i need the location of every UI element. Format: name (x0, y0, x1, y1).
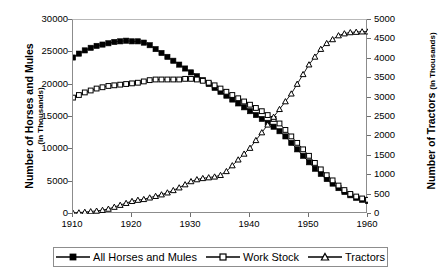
data-point (176, 185, 182, 190)
data-point (366, 197, 368, 202)
y-axis-right-tick-label: 4000 (374, 53, 414, 63)
y-axis-right-tick-label: 500 (374, 189, 414, 199)
series-all-horses-and-mules (73, 38, 368, 204)
data-point (182, 182, 188, 187)
data-point (283, 134, 288, 139)
x-axis-tick-label: 1950 (287, 219, 329, 229)
data-point (330, 37, 336, 42)
data-point (236, 96, 241, 101)
data-point (135, 39, 140, 44)
y-axis-left-tickmark (68, 51, 72, 52)
x-axis-tickmark (190, 213, 191, 217)
data-point (73, 55, 76, 60)
data-point (218, 86, 223, 91)
data-point (248, 102, 253, 107)
y-axis-right-tickmark (367, 135, 371, 136)
data-point (360, 196, 365, 201)
y-axis-left-tick-label: 15000 (10, 111, 68, 121)
data-point (159, 50, 164, 55)
y-axis-right-tickmark (367, 174, 371, 175)
data-point (195, 77, 200, 82)
x-axis-tickmark (72, 213, 73, 217)
data-point (188, 70, 193, 75)
data-point (330, 178, 335, 183)
data-point (224, 89, 229, 94)
data-point (76, 210, 82, 214)
data-point (336, 183, 341, 188)
y-axis-left-tick-label: 5000 (10, 176, 68, 186)
data-point (200, 78, 205, 83)
y-axis-left-tickmark (68, 116, 72, 117)
x-axis-tick-label: 1940 (228, 219, 270, 229)
data-point (301, 153, 306, 158)
data-point (295, 140, 300, 145)
y-axis-right-tick-label: 0 (374, 208, 414, 218)
data-point (318, 167, 323, 172)
x-axis-tick-label: 1910 (51, 219, 93, 229)
y-axis-left-tickmark (68, 84, 72, 85)
data-point (73, 95, 75, 100)
data-point (294, 81, 300, 86)
series-work-stock (73, 76, 368, 202)
data-point (112, 39, 117, 44)
data-point (94, 86, 99, 91)
data-point (129, 39, 134, 44)
data-point (76, 51, 81, 56)
data-point (165, 190, 171, 195)
x-axis-tick-label: 1960 (346, 219, 388, 229)
y-axis-right-tick-label: 3500 (374, 72, 414, 82)
data-point (171, 58, 176, 63)
y-axis-right-title-main: Number of Tractors (425, 93, 437, 190)
x-axis-tickmark (249, 213, 250, 217)
data-point (88, 88, 93, 93)
data-point (236, 101, 241, 106)
caption-partial (60, 269, 380, 278)
y-axis-right-tickmark (367, 19, 371, 20)
y-axis-right-tick-label: 5000 (374, 14, 414, 24)
y-axis-right-tickmark (367, 77, 371, 78)
data-point (253, 112, 258, 117)
data-point (288, 91, 294, 96)
data-point (106, 84, 111, 89)
data-point (218, 172, 224, 177)
data-point (141, 79, 146, 84)
data-point (82, 90, 87, 95)
data-point (324, 173, 329, 178)
y-axis-right-title-sub: (In Thousands) (428, 32, 437, 89)
legend-item-all-horses-and-mules[interactable]: All Horses and Mules (56, 251, 197, 263)
data-point (130, 81, 135, 86)
data-point (147, 78, 152, 83)
data-point (88, 45, 93, 50)
y-axis-right-tickmark (367, 194, 371, 195)
y-axis-left-tick-label: 0 (10, 208, 68, 218)
data-point (307, 153, 312, 158)
data-point (230, 93, 235, 98)
legend-label: Tractors (345, 251, 385, 263)
y-axis-right-title: Number of Tractors (In Thousands) (426, 16, 438, 206)
data-point (147, 43, 152, 48)
legend-marker-open-triangle-icon (308, 251, 342, 263)
y-axis-right-tick-label: 1000 (374, 169, 414, 179)
y-axis-right-tick-label: 2500 (374, 111, 414, 121)
data-point (289, 134, 294, 139)
x-axis-tick-label: 1930 (169, 219, 211, 229)
data-point (73, 210, 76, 214)
data-point (277, 129, 282, 134)
y-axis-right-tick-label: 4500 (374, 33, 414, 43)
y-axis-left-tickmark (68, 181, 72, 182)
y-axis-left-tickmark (68, 148, 72, 149)
y-axis-left-tickmark (68, 19, 72, 20)
legend-item-work-stock[interactable]: Work Stock (206, 251, 299, 263)
data-point (177, 77, 182, 82)
data-point (100, 42, 105, 47)
data-point (112, 83, 117, 88)
x-axis-tickmark (367, 213, 368, 217)
data-point (124, 82, 129, 87)
data-point (242, 105, 247, 110)
legend-item-tractors[interactable]: Tractors (308, 251, 385, 263)
data-point (165, 77, 170, 82)
data-point (94, 43, 99, 48)
data-point (106, 41, 111, 46)
data-point (82, 48, 87, 53)
